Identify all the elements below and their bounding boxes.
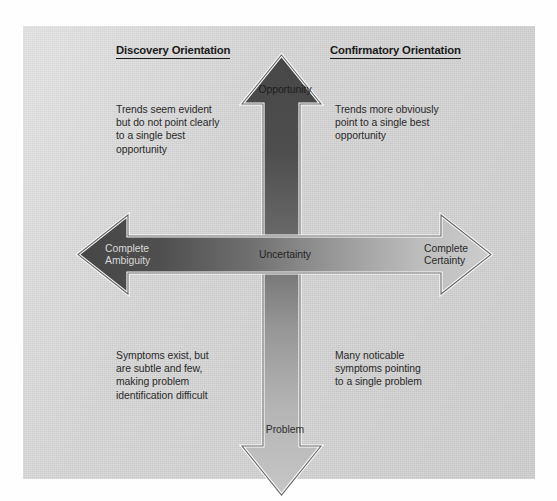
axis-label-uncertainty: Uncertainty	[236, 249, 334, 261]
axis-label-opportunity: Opportunity	[249, 84, 321, 96]
heading-discovery-orientation: Discovery Orientation	[116, 44, 230, 59]
figure-root: Discovery Orientation Confirmatory Orien…	[0, 0, 557, 501]
axis-label-problem: Problem	[249, 424, 321, 436]
quadrant-text-bottom-left: Symptoms exist, but are subtle and few, …	[116, 349, 274, 402]
quadrant-text-top-right: Trends more obviously point to a single …	[335, 103, 490, 143]
heading-confirmatory-orientation: Confirmatory Orientation	[330, 44, 461, 59]
axis-label-complete-certainty: Complete Certainty	[424, 243, 500, 268]
axis-label-complete-ambiguity: Complete Ambiguity	[105, 243, 177, 268]
quadrant-text-bottom-right: Many noticable symptoms pointing to a si…	[335, 349, 490, 389]
quadrant-text-top-left: Trends seem evident but do not point cle…	[116, 103, 266, 156]
